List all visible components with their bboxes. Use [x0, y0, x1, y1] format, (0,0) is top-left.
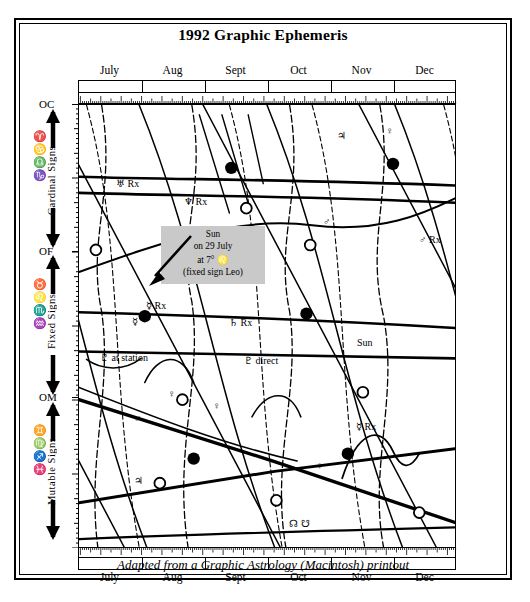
label-jupiter-bottom: ♃ [134, 475, 143, 486]
month-band-top [78, 80, 456, 93]
month-label-aug-top: Aug [141, 64, 204, 76]
label-lunar-nodes: ☊ ☋ [289, 518, 310, 529]
label-mercury-rx-1: ☿ Rx [146, 300, 166, 311]
label-sun-open: Sun [357, 337, 373, 348]
month-label-oct-top: Oct [267, 64, 330, 76]
label-pluto-station: ♇ at station [100, 352, 148, 363]
chart-caption: Adapted from a Graphic Astrology (Macint… [16, 557, 510, 573]
y-group-mutable-label: Mutable Signs [46, 418, 60, 524]
day-ruler-top [78, 93, 456, 104]
y-group-mutable-glyphs: ♊ ♍ ♐ ♓ [33, 424, 46, 476]
month-label-dec-top: Dec [393, 64, 456, 76]
label-jupiter-top: ♃ [337, 130, 346, 141]
annotation-arrow [143, 232, 203, 292]
month-label-nov-top: Nov [330, 64, 393, 76]
label-uranus-rx: ♅ Rx [116, 178, 139, 189]
label-venus-low-2: ♀ [213, 400, 221, 411]
y-group-fixed-label: Fixed Signs [46, 272, 60, 370]
label-mars-mid: ♂ [323, 216, 331, 227]
label-mars-low: ♂ [134, 413, 142, 424]
label-mercury-1: ☿ [132, 316, 138, 327]
label-venus-right: ♀ [316, 460, 324, 471]
month-label-july-top: July [78, 64, 141, 76]
label-neptune-rx: ♆ Rx [184, 196, 207, 207]
label-venus-top: ♀ [386, 125, 394, 136]
label-mercury-rx-2: ☿ Rx [356, 421, 376, 432]
chart-frame: 1992 Graphic Ephemeris July Aug Sept Oct… [14, 18, 512, 580]
y-group-fixed-glyphs: ♉ ♌ ♏ ♒ [33, 278, 46, 330]
label-venus-low: ♀ [168, 388, 176, 399]
month-label-sept-top: Sept [204, 64, 267, 76]
page-title: 1992 Graphic Ephemeris [16, 26, 510, 44]
y-group-cardinal-label: Cardinal Signs [46, 125, 60, 235]
label-mars-rx: ♂ Rx [419, 234, 441, 245]
label-pluto-direct: ♇ direct [244, 355, 278, 366]
y-group-cardinal-glyphs: ♈ ♋ ♎ ♑ [33, 130, 46, 182]
label-saturn-rx: ♄ Rx [229, 317, 252, 328]
